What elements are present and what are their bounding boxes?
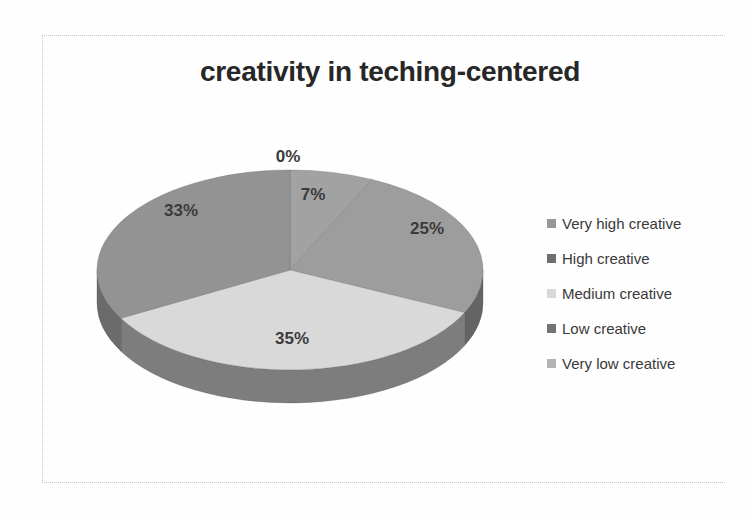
legend-item: Low creative [547, 318, 681, 338]
figure: creativity in teching-centered 0% 7% 25%… [0, 0, 753, 519]
legend-item: Very low creative [547, 353, 681, 373]
legend-label: High creative [562, 250, 650, 267]
legend-item: Medium creative [547, 283, 681, 303]
legend-label: Medium creative [562, 285, 672, 302]
slice-label-low: 35% [275, 329, 309, 349]
legend: Very high creative High creative Medium … [547, 213, 681, 388]
legend-swatch-icon [547, 289, 556, 298]
slice-label-medium: 25% [410, 219, 444, 239]
legend-item: Very high creative [547, 213, 681, 233]
legend-item: High creative [547, 248, 681, 268]
legend-swatch-icon [547, 219, 556, 228]
slice-label-high: 7% [301, 185, 326, 205]
slice-label-very-high: 0% [276, 147, 301, 167]
legend-swatch-icon [547, 359, 556, 368]
legend-label: Very low creative [562, 355, 675, 372]
legend-label: Low creative [562, 320, 646, 337]
legend-label: Very high creative [562, 215, 681, 232]
legend-swatch-icon [547, 324, 556, 333]
slice-label-very-low: 33% [164, 201, 198, 221]
legend-swatch-icon [547, 254, 556, 263]
pie-slices [97, 170, 483, 403]
